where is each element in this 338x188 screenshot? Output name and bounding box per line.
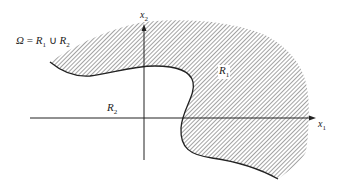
x1-label-sub: 1 bbox=[322, 124, 326, 132]
domain-diagram bbox=[0, 0, 338, 188]
equals-sign: = bbox=[24, 34, 36, 46]
r2-label-text: R bbox=[107, 101, 114, 113]
region-r1 bbox=[50, 20, 309, 179]
x1-arrow-icon bbox=[309, 116, 316, 121]
x2-axis-label: x2 bbox=[140, 10, 148, 23]
r2-label-sub: 2 bbox=[114, 108, 118, 116]
r1-label-sub: 1 bbox=[226, 71, 230, 79]
omega-symbol: Ω bbox=[16, 34, 24, 46]
union-symbol: ∪ bbox=[46, 34, 60, 46]
r1-label-text: R bbox=[219, 64, 226, 76]
r2-subscript: 2 bbox=[66, 41, 70, 49]
x1-axis-label: x1 bbox=[318, 119, 326, 132]
x2-label-sub: 2 bbox=[144, 15, 148, 23]
region-r1-label: R1 bbox=[218, 65, 230, 79]
equation-label: Ω = R1 ∪ R2 bbox=[16, 35, 70, 49]
region-r2-label: R2 bbox=[107, 102, 117, 116]
